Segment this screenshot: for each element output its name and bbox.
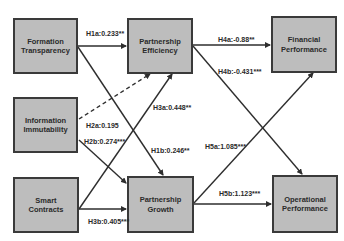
edge-label-h1a: H1a:0.233** <box>86 30 124 38</box>
node-label: Operational Performance <box>276 195 334 214</box>
node-operational-performance: Operational Performance <box>272 175 338 233</box>
path-diagram: Formation Transparency Information Immut… <box>0 0 344 241</box>
node-financial-performance: Financial Performance <box>271 16 337 73</box>
node-label: Information Immutability <box>17 116 74 135</box>
edge-label-h2a: H2a:0.195 <box>86 122 119 130</box>
node-partnership-efficiency: Partnership Efficiency <box>127 18 193 74</box>
node-label: Smart Contracts <box>17 196 75 215</box>
node-label: Formation Transparency <box>17 37 74 56</box>
edge-label-h4b: H4b:-0.431*** <box>218 68 244 76</box>
edge-label-h3b: H3b:0.405*** <box>88 218 129 226</box>
node-label: Financial Performance <box>275 35 333 54</box>
edge-label-h1b: H1b:0.246** <box>151 147 190 155</box>
edge-h2b <box>79 140 126 183</box>
node-label: Partnership Efficiency <box>131 37 189 56</box>
edge-label-h4a: H4a:-0.88** <box>218 36 255 44</box>
edge-label-h5a: H5a:1.085*** <box>205 143 246 151</box>
node-label: Partnership Growth <box>131 195 190 214</box>
edge-h2a <box>79 74 150 119</box>
edge-label-h3a: H3a:0.448** <box>153 104 191 112</box>
node-information-immutability: Information Immutability <box>13 97 78 153</box>
node-smart-contracts: Smart Contracts <box>13 177 79 233</box>
node-partnership-growth: Partnership Growth <box>127 176 194 233</box>
edge-label-h2b: H2b:0.274*** <box>84 138 125 146</box>
node-formation-transparency: Formation Transparency <box>13 18 78 74</box>
edge-label-h5b: H5b:1.123*** <box>219 190 260 198</box>
